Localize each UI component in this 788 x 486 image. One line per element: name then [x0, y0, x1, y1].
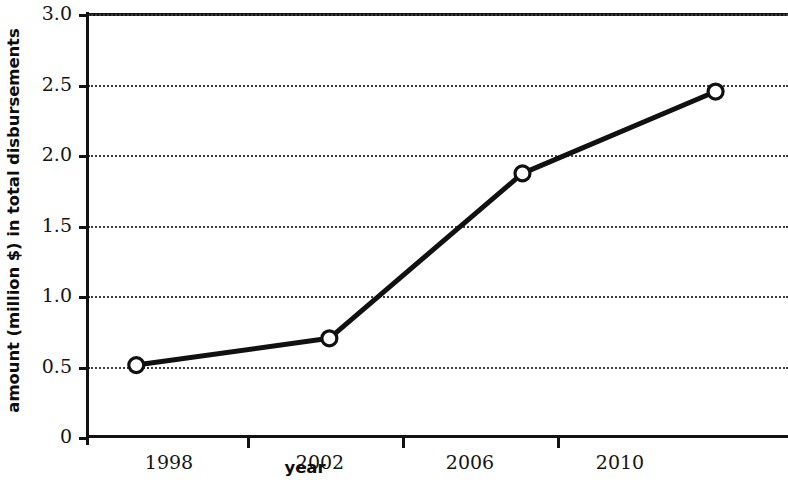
data-point-2010 [708, 84, 723, 99]
y-tick-label-1-0: 1.0 [12, 286, 72, 305]
y-tick-label-2-0: 2.0 [12, 145, 72, 164]
y-tick-label-2-5: 2.5 [12, 75, 72, 94]
plot-area: 3.0 2.5 2.0 1.5 1.0 0.5 0 1998 2002 2006… [88, 14, 788, 437]
y-tick-label-0-5: 0.5 [12, 357, 72, 376]
y-tick-0 [79, 437, 89, 440]
x-tick-2000 [247, 437, 250, 448]
x-tick-2008 [557, 437, 560, 448]
y-tick-label-0: 0 [12, 427, 72, 446]
y-tick-label-1-5: 1.5 [12, 216, 72, 235]
data-point-1998 [129, 358, 144, 373]
x-axis-title: year [88, 458, 780, 477]
x-tick-2004 [402, 437, 405, 448]
x-axis-title-text: year [284, 458, 325, 477]
series-line [136, 92, 715, 366]
chart-figure: amount (million $) in total disbursement… [0, 0, 788, 486]
data-series [88, 14, 788, 437]
y-tick-label-3-0: 3.0 [12, 4, 72, 23]
data-point-2002 [322, 331, 337, 346]
data-point-2006 [515, 166, 530, 181]
